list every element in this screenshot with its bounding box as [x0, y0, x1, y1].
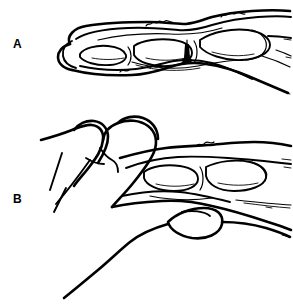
panel-label-a: A — [13, 38, 22, 50]
panel-b-hand-crease-lines — [50, 153, 90, 212]
panel-b-finger-outline — [120, 142, 291, 168]
panel-b-examiner-thumb — [168, 208, 222, 238]
panel-b-illustration — [0, 0, 293, 306]
figure-root: A B — [0, 0, 293, 306]
panel-b-phalanges — [144, 161, 266, 191]
panel-label-b: B — [13, 193, 22, 205]
